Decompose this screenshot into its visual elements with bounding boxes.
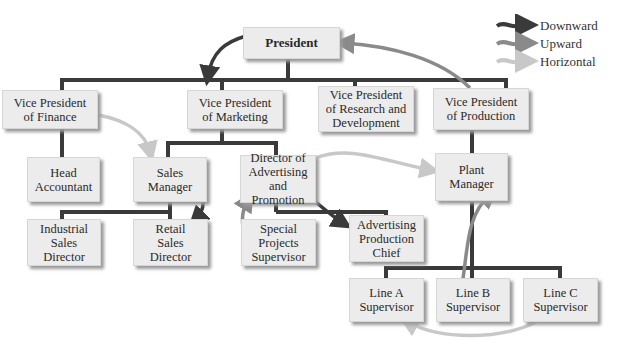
node-industrial-sales-director: Industrial Sales Director	[27, 219, 101, 266]
legend-label-horizontal: Horizontal	[540, 54, 596, 70]
downward-arrow-icon	[497, 24, 527, 26]
node-retail-sales-director: Retail Sales Director	[133, 219, 208, 266]
node-sales-manager: Sales Manager	[133, 157, 207, 202]
node-president: President	[243, 27, 340, 59]
legend-arrows	[495, 14, 540, 74]
upward-arrow-icon	[497, 42, 527, 44]
node-vp-finance: Vice President of Finance	[2, 90, 98, 129]
node-line-a-supervisor: Line A Supervisor	[349, 278, 424, 322]
node-plant-manager: Plant Manager	[435, 153, 508, 201]
legend-label-downward: Downward	[540, 18, 598, 34]
legend-label-upward: Upward	[540, 36, 582, 52]
node-head-accountant: Head Accountant	[27, 157, 100, 202]
node-vp-production: Vice President of Production	[433, 88, 529, 130]
node-advertising-production-chief: Advertising Production Chief	[349, 215, 424, 262]
node-director-advertising-promotion: Director of Advertising and Promotion	[240, 155, 316, 203]
node-vp-research-development: Vice President of Research and Developme…	[318, 86, 414, 132]
node-line-c-supervisor: Line C Supervisor	[523, 278, 598, 322]
org-chart-diagram: President Vice President of Finance Vice…	[0, 0, 628, 347]
node-vp-marketing: Vice President of Marketing	[187, 90, 283, 129]
node-line-b-supervisor: Line B Supervisor	[436, 278, 510, 322]
node-special-projects-supervisor: Special Projects Supervisor	[241, 219, 316, 266]
legend: Downward Upward Horizontal	[495, 14, 628, 74]
horizontal-arrow-icon	[497, 60, 527, 62]
